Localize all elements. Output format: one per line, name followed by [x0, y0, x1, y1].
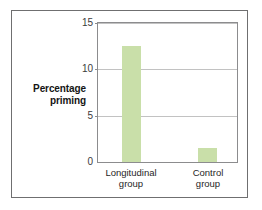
gridline-15 [98, 23, 237, 24]
y-tick-label-10: 10 [82, 64, 93, 74]
x-tick-label-control-line2: group [193, 178, 224, 189]
x-tick-label-longitudinal-line2: group [105, 178, 156, 189]
gridline-5 [98, 116, 237, 117]
x-tick-label-control-group: Control group [193, 167, 224, 189]
x-tick-label-control-line1: Control [193, 167, 224, 178]
y-axis-title-line1: Percentage [14, 83, 86, 95]
y-tick-label-0: 0 [87, 157, 93, 167]
plot-area: 15 10 5 0 Longitudinal group Control gro… [97, 22, 238, 163]
gridline-10 [98, 69, 237, 70]
x-tick-label-longitudinal-line1: Longitudinal [105, 167, 156, 178]
y-axis-title-line2: priming [14, 95, 86, 107]
x-tick-label-longitudinal-group: Longitudinal group [105, 167, 156, 189]
tick-mark-15 [95, 23, 98, 24]
tick-mark-5 [95, 116, 98, 117]
bar-longitudinal-group [122, 46, 141, 162]
y-tick-label-15: 15 [82, 18, 93, 28]
bar-control-group [198, 148, 217, 162]
tick-mark-10 [95, 69, 98, 70]
y-axis-title: Percentage priming [14, 83, 86, 107]
y-tick-label-5: 5 [87, 111, 93, 121]
figure-container: Percentage priming 15 10 5 0 Longitudina… [0, 0, 262, 210]
